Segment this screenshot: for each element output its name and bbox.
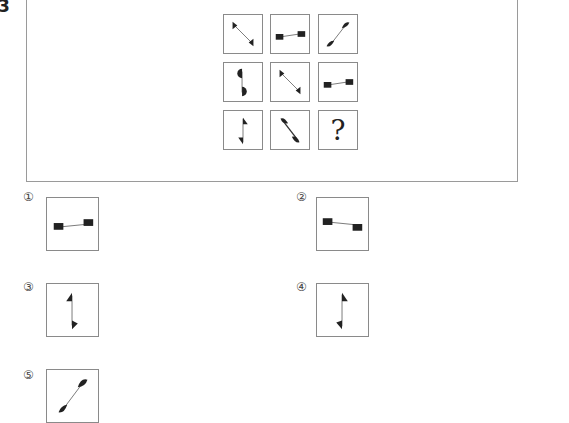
option-3[interactable] [46, 283, 99, 337]
option-4[interactable] [316, 283, 369, 337]
vertical-triangle-line-icon [47, 284, 98, 336]
option-1[interactable] [46, 197, 99, 251]
vertical-flag-triangle-line-icon [317, 284, 368, 336]
diagonal-semicircle-line-icon [47, 370, 98, 422]
option-5-label: ⑤ [23, 368, 34, 382]
grid-cell-r3c3-missing: ? [318, 110, 358, 150]
option-4-label: ④ [296, 280, 307, 294]
grid-cell-r1c3 [318, 14, 358, 54]
vertical-semicircle-line-icon [224, 63, 262, 101]
vertical-flag-triangle-line-icon [224, 111, 262, 149]
horizontal-squares-line-icon [319, 63, 357, 101]
question-mark: ? [319, 111, 357, 149]
option-1-label: ① [23, 190, 34, 204]
grid-cell-r2c3 [318, 62, 358, 102]
grid-cell-r2c2 [270, 62, 310, 102]
question-number: 3 [0, 0, 10, 16]
grid-cell-r3c1 [223, 110, 263, 150]
grid-cell-r2c1 [223, 62, 263, 102]
diagonal-semicircle-line-icon [319, 15, 357, 53]
horizontal-squares-line-icon [47, 198, 98, 250]
horizontal-squares-line-icon [271, 15, 309, 53]
option-3-label: ③ [23, 280, 34, 294]
grid-cell-r1c2 [270, 14, 310, 54]
option-5[interactable] [46, 369, 99, 423]
grid-cell-r3c2 [270, 110, 310, 150]
diagonal-triangle-line-icon [224, 15, 262, 53]
option-2[interactable] [316, 197, 369, 251]
option-2-label: ② [296, 190, 307, 204]
grid-cell-r1c1 [223, 14, 263, 54]
diagonal-semicircle-line-icon [271, 111, 309, 149]
diagonal-triangle-line-icon [271, 63, 309, 101]
horizontal-squares-line-icon [317, 198, 368, 250]
